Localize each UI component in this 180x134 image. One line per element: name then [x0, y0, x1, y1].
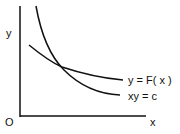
label-y-equals-F-of-x: y = F( x ) — [128, 75, 172, 86]
y-axis-label: y — [6, 28, 12, 39]
diagram-canvas — [0, 0, 180, 134]
origin-label: O — [5, 117, 14, 128]
label-xy-equals-c: xy = c — [128, 91, 157, 102]
x-axis-label: x — [150, 117, 156, 128]
curve-xy-equals-c — [36, 6, 120, 95]
curve-y-equals-F-of-x — [29, 45, 123, 80]
